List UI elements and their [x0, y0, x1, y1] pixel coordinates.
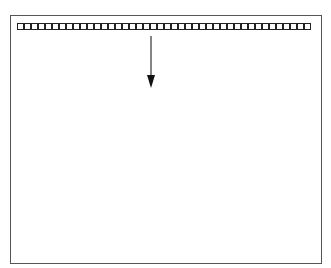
down-arrow — [0, 0, 331, 268]
arrow-head — [147, 75, 155, 88]
